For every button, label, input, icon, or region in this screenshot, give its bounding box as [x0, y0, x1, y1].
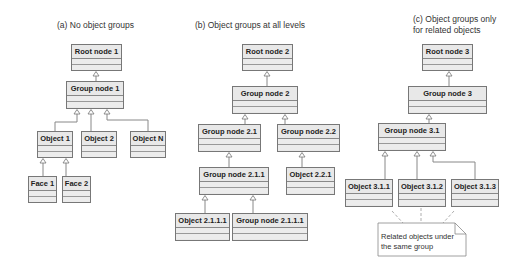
node-label: Group node 2.2	[278, 125, 339, 139]
node-label: Object 1	[38, 132, 72, 146]
node-label: Group node 2.1	[199, 125, 260, 139]
node-group-2-2[interactable]: Group node 2.2	[277, 124, 340, 152]
node-object-2[interactable]: Object 2	[81, 131, 117, 158]
note-line-2: the same group	[381, 242, 462, 252]
edge-object313-group31	[433, 152, 475, 179]
node-label: Face 2	[63, 177, 90, 191]
node-label: Object 2.1.1.1	[176, 214, 229, 228]
edge-objectN-group1	[107, 110, 148, 131]
node-label: Group node 3	[409, 87, 486, 101]
node-group-3[interactable]: Group node 3	[408, 86, 487, 114]
node-root-1[interactable]: Root node 1	[71, 44, 122, 71]
note-related-objects: Related objects under the same group	[378, 223, 466, 256]
node-group-2-1[interactable]: Group node 2.1	[198, 124, 261, 152]
node-object-n[interactable]: Object N	[130, 131, 166, 158]
node-label: Root node 2	[243, 45, 292, 59]
panel-a-title: (a) No object groups	[57, 20, 134, 30]
note-line-1: Related objects under	[381, 232, 462, 242]
node-face-2[interactable]: Face 2	[62, 176, 91, 203]
panel-c-title-line1: (c) Object groups only	[413, 14, 496, 24]
node-group-2[interactable]: Group node 2	[232, 86, 298, 114]
node-object-3-1-2[interactable]: Object 3.1.2	[398, 179, 446, 207]
node-label: Face 1	[29, 177, 56, 191]
node-object-3-1-3[interactable]: Object 3.1.3	[451, 179, 499, 207]
edge-object1-group1	[55, 110, 77, 131]
node-label: Root node 3	[423, 45, 472, 59]
node-group-2-1-1[interactable]: Group node 2.1.1	[199, 167, 269, 195]
panel-b-title: (b) Object groups at all levels	[195, 20, 305, 30]
node-group-3-1[interactable]: Group node 3.1	[378, 123, 446, 151]
note-anchor-object313	[443, 211, 454, 223]
node-face-1[interactable]: Face 1	[28, 176, 57, 203]
node-root-3[interactable]: Root node 3	[422, 44, 473, 71]
node-group-2-1-1-1[interactable]: Group node 2.1.1.1	[232, 213, 308, 241]
node-object-2-2-1[interactable]: Object 2.2.1	[286, 167, 335, 195]
note-anchor-object311	[392, 211, 403, 223]
node-root-2[interactable]: Root node 2	[242, 44, 293, 71]
node-label: Object 3.1.3	[452, 180, 498, 194]
node-label: Object 3.1.1	[346, 180, 392, 194]
node-label: Group node 1	[67, 82, 123, 96]
node-label: Group node 2.1.1.1	[233, 214, 307, 228]
node-object-1[interactable]: Object 1	[37, 131, 73, 158]
panel-c-title-line2: for related objects	[413, 25, 481, 35]
node-label: Group node 2.1.1	[200, 168, 268, 182]
node-label: Group node 3.1	[379, 124, 445, 138]
node-group-1[interactable]: Group node 1	[66, 81, 124, 109]
node-object-3-1-1[interactable]: Object 3.1.1	[345, 179, 393, 207]
node-label: Root node 1	[72, 45, 121, 59]
node-label: Object 3.1.2	[399, 180, 445, 194]
node-label: Group node 2	[233, 87, 297, 101]
node-label: Object 2.2.1	[287, 168, 334, 182]
node-object-2-1-1-1[interactable]: Object 2.1.1.1	[175, 213, 230, 241]
node-label: Object N	[131, 132, 165, 146]
node-label: Object 2	[82, 132, 116, 146]
